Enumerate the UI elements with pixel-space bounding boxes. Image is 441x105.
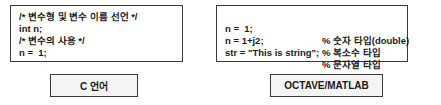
- c-code-line-assignment: n = 1;: [19, 47, 174, 59]
- code-comment: % 문자열 타입: [322, 59, 381, 71]
- c-language-label: C 언어: [50, 74, 138, 97]
- code-text: str = "This is string";: [225, 47, 319, 59]
- c-code-line-declaration: int n;: [19, 23, 174, 35]
- matlab-code-box: n = 1; % 숫자 타입(double) n = 1+j2; % 복소수 타…: [216, 5, 408, 62]
- c-code-line-comment-declare: /* 변수형 및 변수 이름 선언 */: [19, 11, 174, 23]
- matlab-code-line-complex: n = 1+j2; % 복소수 타입: [225, 23, 399, 35]
- matlab-code-line-string: str = "This is string"; % 문자열 타입: [225, 35, 399, 47]
- c-code-line-comment-usage: /* 변수의 사용 */: [19, 35, 174, 47]
- octave-matlab-label: OCTAVE/MATLAB: [270, 74, 383, 97]
- code-comment: % 복소수 타입: [322, 47, 381, 59]
- c-code-box: /* 변수형 및 변수 이름 선언 */ int n; /* 변수의 사용 */…: [10, 5, 183, 62]
- matlab-code-line-double: n = 1; % 숫자 타입(double): [225, 11, 399, 23]
